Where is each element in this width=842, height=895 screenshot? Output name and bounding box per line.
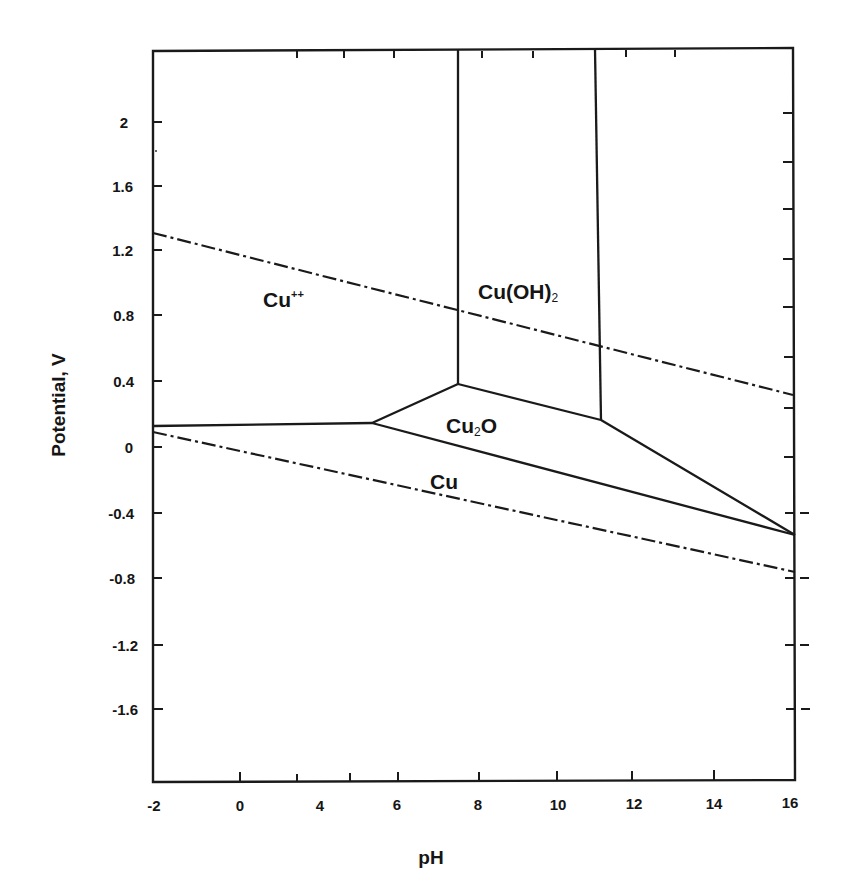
x-tick-labels: -2 0 4 6 8 10 12 14 16 xyxy=(147,794,798,814)
x-tick-label: 8 xyxy=(474,796,482,813)
x-tick-label: 0 xyxy=(236,797,244,814)
oxygen-line xyxy=(153,233,793,395)
y-axis-title: Potential, V xyxy=(48,353,69,457)
right-ticks xyxy=(783,113,810,709)
x-tick-label: 4 xyxy=(316,797,325,814)
phase-boundaries xyxy=(153,49,795,535)
region-label-cu-ion: Cu++ xyxy=(263,288,304,311)
region-label-cuprous-oxide: Cu2O xyxy=(446,414,497,439)
pourbaix-chart: 2 1.6 1.2 0.8 0.4 0 -0.4 -0.8 -1.2 -1.6 … xyxy=(0,0,842,895)
y-tick-label: -1.2 xyxy=(112,637,138,654)
y-tick-label: -1.6 xyxy=(112,701,138,718)
y-tick-label: -0.8 xyxy=(109,570,135,587)
y-tick-labels: 2 1.6 1.2 0.8 0.4 0 -0.4 -0.8 -1.2 -1.6 xyxy=(108,114,138,718)
x-tick-label: 12 xyxy=(626,795,643,812)
scan-speck xyxy=(155,150,157,152)
x-tick-label: 16 xyxy=(782,794,799,811)
region-label-cu-hydroxide: Cu(OH)2 xyxy=(478,280,558,305)
left-ticks xyxy=(153,122,163,709)
x-tick-label: 14 xyxy=(706,795,723,812)
x-tick-label: 6 xyxy=(393,796,401,813)
y-tick-label: 0.8 xyxy=(113,307,134,324)
x-axis-title: pH xyxy=(418,847,443,868)
y-tick-label: 1.6 xyxy=(112,178,133,195)
region-label-copper: Cu xyxy=(430,470,458,493)
x-tick-label: -2 xyxy=(147,797,160,814)
y-tick-label: -0.4 xyxy=(108,505,135,522)
hydrogen-line xyxy=(153,432,795,572)
x-tick-label: 10 xyxy=(550,796,567,813)
y-tick-label: 0 xyxy=(125,439,133,456)
y-tick-label: 2 xyxy=(120,114,128,131)
y-tick-label: 0.4 xyxy=(113,373,135,390)
plot-frame xyxy=(153,48,795,782)
y-tick-label: 1.2 xyxy=(112,242,133,259)
